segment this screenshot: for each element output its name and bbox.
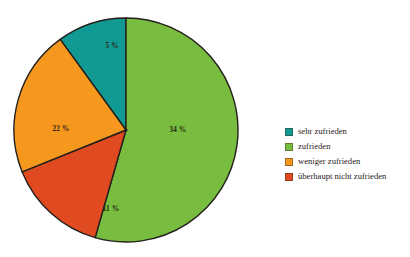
legend-color-swatch xyxy=(285,143,293,151)
legend-item-label: sehr zufrieden xyxy=(298,127,347,136)
legend-item[interactable]: weniger zufrieden xyxy=(285,154,407,169)
legend-color-swatch xyxy=(285,158,293,166)
legend-item-label: überhaupt nicht zufrieden xyxy=(298,172,386,181)
pie-slice-label: 5 % xyxy=(105,42,118,50)
legend-item-label: zufrieden xyxy=(298,142,330,151)
pie-slice-label: 22 % xyxy=(53,125,70,133)
chart-legend: sehr zufriedenzufriedenweniger zufrieden… xyxy=(285,124,407,184)
legend-item[interactable]: sehr zufrieden xyxy=(285,124,407,139)
pie-slice-label: 11 % xyxy=(103,205,120,213)
legend-color-swatch xyxy=(285,173,293,181)
legend-item[interactable]: zufrieden xyxy=(285,139,407,154)
legend-item-label: weniger zufrieden xyxy=(298,157,360,166)
pie-chart-svg: 5 %34 %11 %22 % xyxy=(13,17,239,243)
pie-chart-area: 5 %34 %11 %22 % xyxy=(13,17,239,243)
legend-item[interactable]: überhaupt nicht zufrieden xyxy=(285,169,407,184)
legend-color-swatch xyxy=(285,128,293,136)
pie-chart-figure: 5 %34 %11 %22 % sehr zufriedenzufriedenw… xyxy=(0,0,410,257)
pie-slice-label: 34 % xyxy=(170,126,187,134)
pie-center-dot xyxy=(124,128,127,131)
